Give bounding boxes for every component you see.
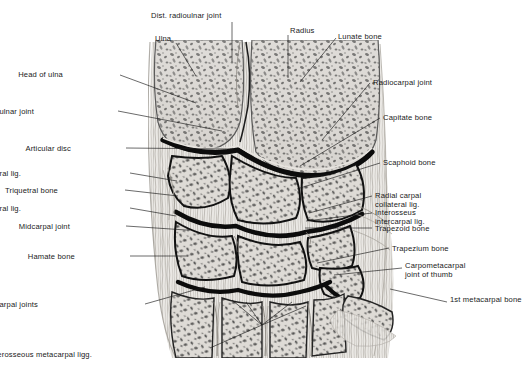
label-midcarpal-joint: Midcarpal joint [19,222,70,231]
label-first-metacarpal-bone: 1st metacarpal bone [450,295,522,304]
label-trapezoid-bone: Trapezoid bone [375,224,430,233]
label-dist-radioulnar-joint-top: Dist. radioulnar joint [151,11,221,20]
label-ulnar-carpal-collateral-lig-2: Ulnar carpal collateral lig. [0,204,21,213]
anatomy-figure: Dist. radioulnar jointUlnaRadiusLunate b… [0,0,522,378]
label-lunate-bone: Lunate bone [338,32,382,41]
label-dist-radioulnar-joint-mid: Dist. radioulnar joint [0,107,34,116]
label-articular-disc: Articular disc [25,144,71,153]
label-radiocarpal-joint: Radiocarpal joint [373,78,432,87]
label-triquetral-bone: Triquetral bone [5,186,58,195]
wrist-coronal-section-illustration [0,0,522,378]
label-hamate-bone: Hamate bone [28,252,75,261]
label-scaphoid-bone: Scaphoid bone [383,158,436,167]
label-interosseous-metacarpal-ligg: Interosseous metacarpal ligg. [0,350,92,359]
label-capitate-bone: Capitate bone [383,113,432,122]
label-carpometacarpal-joint-of-thumb: Carpometacarpal joint of thumb [405,261,471,279]
label-carpometacarpal-joints: Carpometacarpal joints [0,300,38,309]
label-ulnar-carpal-collateral-lig-1: Ulnar carpal collateral lig. [0,169,21,178]
label-radius: Radius [290,26,315,35]
label-ulna: Ulna [155,34,171,43]
label-head-of-ulna: Head of ulna [18,70,63,79]
label-trapezium-bone: Trapezium bone [392,244,449,253]
label-radial-carpal-collateral-lig: Radial carpal collateral lig. [375,191,441,209]
